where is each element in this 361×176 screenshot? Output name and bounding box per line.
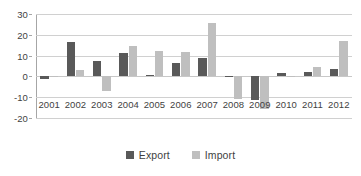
bar-import-2001 [50, 76, 58, 77]
x-tick-label-2007: 2007 [194, 99, 220, 110]
x-axis-labels: 2001200220032004200520062007200820092010… [36, 99, 352, 113]
bar-export-2002 [67, 42, 75, 77]
y-tick-label: -20 [14, 113, 28, 124]
y-tick-label: -10 [14, 92, 28, 103]
y-tick-mark [29, 118, 32, 119]
bar-export-2007 [198, 58, 206, 77]
y-tick-mark [29, 35, 32, 36]
y-tick-label: 0 [23, 71, 28, 82]
y-tick-label: 20 [17, 29, 28, 40]
x-tick-label-2002: 2002 [62, 99, 88, 110]
bar-export-2001 [40, 76, 48, 79]
x-tick-label-2012: 2012 [326, 99, 352, 110]
bar-import-2010 [287, 76, 295, 77]
bar-export-2008 [225, 76, 233, 77]
gridline--20 [36, 118, 352, 119]
bar-export-2010 [277, 73, 285, 76]
x-tick-label-2003: 2003 [89, 99, 115, 110]
bar-import-2002 [76, 70, 84, 76]
bar-import-2008 [234, 76, 242, 99]
x-tick-label-2008: 2008 [220, 99, 246, 110]
bar-import-2011 [313, 67, 321, 77]
x-tick-label-2004: 2004 [115, 99, 141, 110]
bar-import-2006 [181, 52, 189, 76]
y-tick-label: 30 [17, 9, 28, 20]
legend-item-export[interactable]: Export [126, 150, 170, 161]
bar-import-2012 [339, 41, 347, 76]
bar-export-2012 [330, 69, 338, 77]
legend-swatch-icon [126, 151, 134, 159]
y-tick-mark [29, 14, 32, 15]
bar-export-2009 [251, 76, 259, 100]
bar-import-2003 [102, 76, 110, 91]
bar-export-2006 [172, 63, 180, 76]
bar-import-2005 [155, 51, 163, 77]
x-tick-label-2006: 2006 [168, 99, 194, 110]
bar-import-2004 [129, 46, 137, 76]
bar-export-2004 [119, 53, 127, 77]
x-tick-label-2010: 2010 [273, 99, 299, 110]
y-tick-label: 10 [17, 50, 28, 61]
legend-item-import[interactable]: Import [192, 150, 235, 161]
y-tick-mark [29, 97, 32, 98]
x-tick-label-2005: 2005 [141, 99, 167, 110]
x-tick-label-2011: 2011 [299, 99, 325, 110]
bar-export-2005 [146, 75, 154, 77]
y-tick-mark [29, 76, 32, 77]
y-tick-mark [29, 56, 32, 57]
bar-export-2003 [93, 61, 101, 76]
x-tick-label-2009: 2009 [247, 99, 273, 110]
x-tick-label-2001: 2001 [36, 99, 62, 110]
y-axis-labels: 3020100-10-20 [0, 14, 32, 118]
chart-legend: ExportImport [0, 150, 361, 161]
bar-import-2007 [208, 23, 216, 76]
bar-chart: 3020100-10-20 20012002200320042005200620… [0, 0, 361, 176]
legend-label: Export [139, 150, 170, 161]
legend-swatch-icon [192, 151, 200, 159]
legend-label: Import [205, 150, 235, 161]
bar-export-2011 [304, 72, 312, 76]
